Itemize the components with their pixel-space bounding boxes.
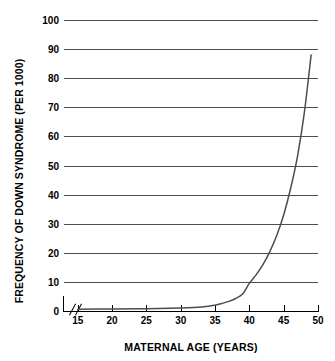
- y-tick-label: 0: [53, 306, 59, 317]
- y-tick-label: 80: [48, 73, 59, 84]
- y-tick-label: 20: [48, 247, 59, 258]
- y-tick-label: 90: [48, 44, 59, 55]
- y-tick-label: 60: [48, 131, 59, 142]
- y-axis-title: FREQUENCY OF DOWN SYNDROME (PER 1000): [13, 31, 25, 331]
- chart-root: · FREQUENCY OF DOWN SYNDROME (PER 1000) …: [0, 0, 335, 361]
- x-tick-label: 50: [312, 315, 323, 326]
- x-tick-label: 35: [209, 315, 220, 326]
- y-tick-label: 40: [48, 189, 59, 200]
- x-tick-label: 15: [72, 315, 83, 326]
- y-tick-label: 70: [48, 102, 59, 113]
- x-tick-label: 30: [175, 315, 186, 326]
- y-tick-label: 100: [42, 15, 59, 26]
- x-tick: [318, 305, 319, 312]
- x-tick-label: 20: [106, 315, 117, 326]
- chart-title-cropped: ·: [0, 0, 335, 5]
- x-axis-title: MATERNAL AGE (YEARS): [64, 341, 318, 353]
- x-tick-label: 40: [244, 315, 255, 326]
- y-tick-label: 30: [48, 218, 59, 229]
- plot-area: 0102030405060708090100 1520253035404550: [64, 20, 318, 311]
- x-axis-spine: [63, 311, 318, 312]
- y-tick-label: 50: [48, 160, 59, 171]
- x-tick-label: 25: [141, 315, 152, 326]
- y-tick-label: 10: [48, 276, 59, 287]
- x-tick-label: 45: [278, 315, 289, 326]
- data-curve: [64, 20, 318, 311]
